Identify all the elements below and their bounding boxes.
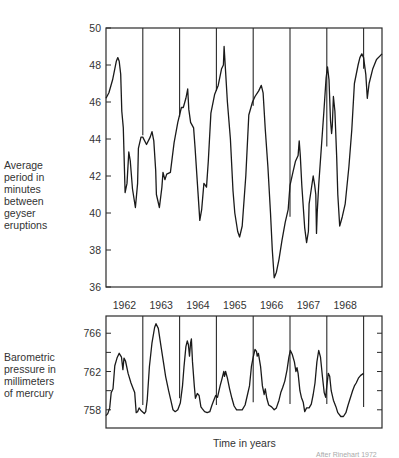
y-tick-label: 44	[89, 133, 101, 145]
year-label: 1968	[334, 299, 358, 311]
top-y-axis-ticks: 3638404244464850	[89, 22, 111, 293]
bottom-y-axis-title: Barometric pressure in millimeters of me…	[4, 351, 56, 399]
top-ylabel-line: eruptions	[4, 219, 47, 231]
top-chart-frame	[106, 28, 382, 287]
y-tick-label: 36	[89, 281, 101, 293]
top-ylabel-line: period in	[4, 171, 47, 183]
bottom-ylabel-line: of mercury	[4, 387, 56, 399]
year-label: 1962	[113, 299, 137, 311]
x-axis-title: Time in years	[213, 437, 276, 449]
top-ylabel-line: geyser	[4, 207, 47, 219]
top-ylabel-line: Average	[4, 159, 47, 171]
bottom-chart-frame	[106, 316, 382, 428]
y-tick-label: 50	[89, 22, 101, 34]
year-labels: 1962196319641965196619671968	[113, 299, 357, 311]
year-label: 1964	[186, 299, 210, 311]
y-tick-label: 42	[89, 170, 101, 182]
year-label: 1963	[150, 299, 174, 311]
geyser-period-chart: 3638404244464850	[89, 22, 382, 293]
y-tick-label: 762	[83, 366, 101, 378]
y-tick-label: 766	[83, 327, 101, 339]
year-label: 1966	[260, 299, 284, 311]
geyser-period-line	[106, 47, 382, 278]
top-ylabel-line: between	[4, 195, 47, 207]
year-label: 1967	[297, 299, 321, 311]
y-tick-label: 758	[83, 404, 101, 416]
year-label: 1965	[223, 299, 247, 311]
barometric-pressure-line	[106, 324, 364, 417]
barometric-pressure-chart: 758762766	[83, 316, 382, 428]
y-tick-label: 46	[89, 96, 101, 108]
top-y-axis-title: Average period in minutes between geyser…	[4, 159, 47, 231]
top-ylabel-line: minutes	[4, 183, 47, 195]
y-tick-label: 48	[89, 59, 101, 71]
source-credit: After Rinehart 1972	[316, 451, 377, 458]
bottom-ylabel-line: millimeters	[4, 375, 56, 387]
y-tick-label: 38	[89, 244, 101, 256]
figure: 3638404244464850 19621963196419651966196…	[0, 0, 399, 458]
bottom-year-dividers	[143, 316, 364, 407]
bottom-ylabel-line: Barometric	[4, 351, 56, 363]
bottom-ylabel-line: pressure in	[4, 363, 56, 375]
y-tick-label: 40	[89, 207, 101, 219]
